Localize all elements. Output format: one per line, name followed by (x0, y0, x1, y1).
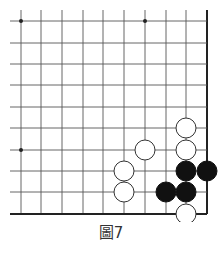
white-stone (176, 204, 196, 222)
white-stone (135, 140, 155, 160)
white-stone (176, 140, 196, 160)
black-stone (156, 182, 176, 202)
figure-caption: 圖7 (0, 224, 222, 242)
star-point-icon (19, 148, 23, 152)
white-stone (114, 182, 134, 202)
white-stone (176, 118, 196, 138)
black-stone (176, 161, 196, 181)
white-stone (114, 161, 134, 181)
star-point-icon (143, 19, 147, 23)
star-point-icon (19, 19, 23, 23)
go-board (0, 0, 222, 222)
black-stone (176, 182, 196, 202)
grid-lines (10, 10, 207, 214)
black-stone (197, 161, 217, 181)
stones (114, 118, 217, 222)
